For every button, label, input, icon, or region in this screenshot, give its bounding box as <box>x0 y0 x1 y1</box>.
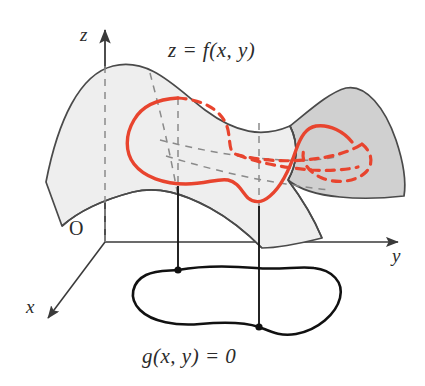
constraint-equation-label: g(x, y) = 0 <box>142 344 236 369</box>
y-axis-label: y <box>392 245 400 267</box>
surface-front-sheet <box>46 64 322 248</box>
z-axis-label: z <box>80 24 87 46</box>
constraint-curve-blob <box>133 267 341 335</box>
origin-label: O <box>69 217 83 240</box>
constraint-curve-group <box>133 266 341 334</box>
surface-equation-label: z = f(x, y) <box>168 38 255 63</box>
figure-root: z = f(x, y) g(x, y) = 0 z y x O <box>0 0 425 386</box>
constraint-point-right <box>255 323 262 330</box>
x-axis-line <box>48 242 105 318</box>
x-axis-label: x <box>26 296 34 318</box>
constraint-point-left <box>174 266 181 273</box>
